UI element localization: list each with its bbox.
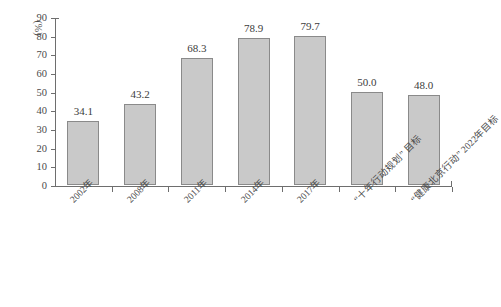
y-axis-tick (51, 130, 55, 131)
x-axis-tick (452, 187, 453, 192)
y-axis-tick (51, 74, 55, 75)
y-axis-tick-label: 70 (7, 50, 47, 60)
bar-value-label: 34.1 (53, 106, 113, 117)
y-axis-tick-label: 50 (7, 88, 47, 98)
y-axis-tick-label: 60 (7, 69, 47, 79)
y-axis-tick-label: 10 (7, 162, 47, 172)
bar-value-label: 78.9 (224, 23, 284, 34)
x-axis-tick (395, 187, 396, 192)
y-axis-tick (51, 149, 55, 150)
y-axis-tick (51, 18, 55, 19)
y-axis-tick (51, 93, 55, 94)
x-axis-tick (225, 187, 226, 192)
bar-value-label: 50.0 (337, 77, 397, 88)
y-axis-tick (51, 37, 55, 38)
bar-value-label: 48.0 (394, 80, 454, 91)
bar-value-label: 68.3 (167, 43, 227, 54)
y-axis-tick-label: 20 (7, 144, 47, 154)
y-axis-tick-label: 30 (7, 125, 47, 135)
y-axis-line (55, 18, 56, 187)
x-axis-tick (168, 187, 169, 192)
y-axis-tick-label: 80 (7, 32, 47, 42)
y-axis-tick-label: 40 (7, 106, 47, 116)
y-axis-tick-label: 90 (7, 13, 47, 23)
y-axis-tick (51, 186, 55, 187)
bar (124, 104, 156, 185)
x-axis-tick (282, 187, 283, 192)
y-axis-top-cap (55, 18, 59, 19)
x-axis-tick (112, 187, 113, 192)
bar (294, 36, 326, 185)
bar (181, 58, 213, 185)
y-axis-tick (51, 55, 55, 56)
bar-value-label: 79.7 (280, 21, 340, 32)
x-axis-tick (339, 187, 340, 192)
y-axis-tick (51, 167, 55, 168)
bar (238, 38, 270, 185)
bar (67, 121, 99, 185)
y-axis-tick-label: 0 (7, 181, 47, 191)
bar-value-label: 43.2 (110, 89, 170, 100)
